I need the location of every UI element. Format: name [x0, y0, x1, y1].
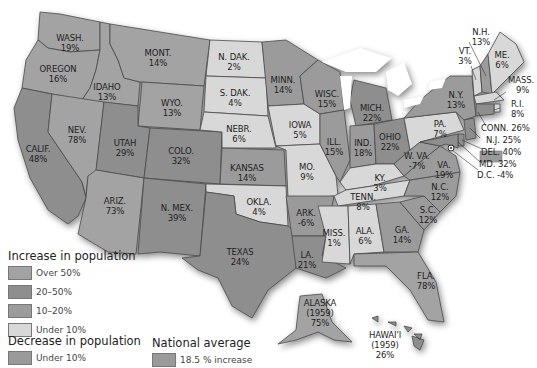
label-ill: ILL.15%: [325, 137, 344, 157]
label-wash: WASH.19%: [56, 33, 84, 53]
legend-increase: Increase in population Over 50% 20–50% 1…: [8, 249, 136, 339]
swatch-over-50: [8, 266, 32, 280]
swatch-decrease: [8, 351, 32, 365]
legend-item-20-50: 20–50%: [8, 282, 136, 301]
legend-national-title: National average: [152, 336, 252, 350]
label-mont: MONT.14%: [145, 48, 172, 68]
label-ala: ALA.6%: [356, 226, 375, 246]
state-nj: [464, 118, 476, 140]
swatch-national: [152, 353, 176, 367]
label-mich: MICH.22%: [360, 103, 384, 123]
label-alaska: ALASKA(1959)75%: [304, 298, 337, 328]
label-dc: D.C. -4%: [477, 170, 513, 180]
swatch-10-20: [8, 304, 32, 318]
label-tenn: TENN.8%: [350, 192, 375, 212]
legend-increase-title: Increase in population: [8, 249, 136, 263]
label-nebr: NEBR.6%: [226, 124, 251, 144]
label-okla: OKLA.4%: [246, 197, 271, 217]
label-nmex: N. MEX.39%: [161, 203, 193, 223]
label-del: DEL. 40%: [481, 147, 521, 157]
label-md: MD. 32%: [479, 159, 516, 169]
legend-item-10-20: 10–20%: [8, 301, 136, 320]
label-conn: CONN. 26%: [481, 123, 530, 133]
label-mass: MASS.9%: [508, 75, 534, 95]
label-ark: ARK.-6%: [296, 208, 316, 228]
label-ohio: OHIO22%: [379, 132, 401, 152]
label-miss: MISS.1%: [323, 228, 346, 248]
swatch-20-50: [8, 285, 32, 299]
label-la: LA.21%: [298, 250, 317, 270]
label-texas: TEXAS24%: [226, 247, 253, 267]
label-iowa: IOWA5%: [289, 120, 312, 140]
legend-item-national: 18.5 % increase: [152, 350, 252, 368]
label-ga: GA.14%: [393, 225, 412, 245]
legend-item-decrease-under-10: Under 10%: [8, 348, 141, 367]
label-va: VA.19%: [435, 160, 454, 180]
label-mo: MO.9%: [299, 162, 315, 182]
label-fla: FLA.78%: [417, 271, 436, 291]
label-sc: S.C.12%: [419, 205, 438, 225]
label-vt: VT.3%: [458, 46, 471, 66]
label-nj: N.J. 25%: [486, 135, 521, 145]
legend-decrease-title: Decrease in population: [8, 334, 141, 348]
legend-item-over-50: Over 50%: [8, 263, 136, 282]
label-hawaii: HAWAI'I(1959)26%: [369, 330, 401, 360]
label-wyo: WYO.13%: [161, 98, 183, 118]
label-ri: R.I.8%: [511, 99, 524, 119]
state-del: [458, 134, 464, 146]
legend-decrease: Decrease in population Under 10%: [8, 334, 141, 367]
label-utah: UTAH29%: [114, 138, 137, 158]
dc-marker-dot: [450, 147, 452, 149]
label-idaho: IDAHO13%: [93, 82, 120, 102]
label-calif: CALIF.48%: [26, 144, 51, 164]
label-ariz: ARIZ.73%: [104, 196, 126, 216]
label-nc: N.C.12%: [431, 182, 450, 202]
label-ky: KY.3%: [373, 173, 386, 193]
state-conn: [476, 104, 494, 116]
label-sdak: S. DAK.4%: [220, 88, 251, 108]
legend-national: National average 18.5 % increase: [152, 336, 252, 368]
label-pa: PA.7%: [433, 119, 446, 139]
label-colo: COLO.32%: [168, 146, 194, 166]
label-ind: IND.18%: [354, 138, 373, 158]
label-nev: NEV.78%: [68, 125, 87, 145]
label-oregon: OREGON16%: [39, 64, 76, 84]
label-kansas: KANSAS14%: [230, 163, 264, 183]
label-nh: N.H.13%: [472, 27, 491, 47]
label-minn: MINN.14%: [271, 75, 296, 95]
label-wva: W. VA.-7%: [404, 151, 430, 171]
label-ndak: N. DAK.2%: [218, 52, 250, 72]
label-wisc: WISC.15%: [315, 89, 339, 109]
label-ny: N.Y.13%: [447, 90, 466, 110]
label-me: ME.6%: [494, 50, 509, 70]
